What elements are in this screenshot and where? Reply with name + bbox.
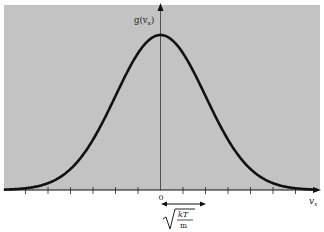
svg-text:kT: kT (178, 210, 189, 219)
zero-tick-label: 0 (159, 193, 164, 202)
x-axis-label: vx (309, 196, 318, 207)
gaussian-chart: g(vx) vx 0 kT m (0, 0, 324, 232)
y-axis-label: g(vx) (134, 15, 154, 26)
svg-text:m: m (180, 221, 187, 230)
sqrt-kt-over-m-label: kT m (163, 209, 195, 230)
plot-background (4, 5, 320, 190)
arrow-left-icon (161, 202, 167, 207)
arrow-right-icon (200, 202, 206, 207)
